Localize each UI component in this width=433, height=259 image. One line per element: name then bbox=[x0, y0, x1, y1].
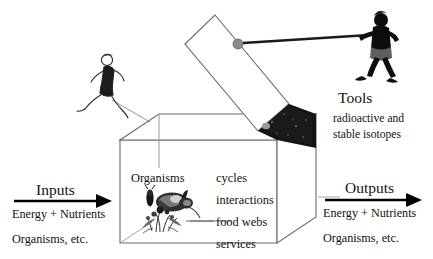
outputs-title: Outputs bbox=[345, 179, 394, 197]
lid-knob-icon bbox=[233, 39, 243, 49]
inputs-line-2: Organisms, etc. bbox=[12, 232, 88, 246]
rope-pulling-figure-icon bbox=[355, 11, 399, 83]
process-label-interactions: interactions bbox=[216, 193, 274, 207]
outputs-line-1: Energy + Nutrients bbox=[323, 206, 416, 220]
tools-line-1: radioactive and bbox=[333, 112, 404, 125]
rope-icon bbox=[243, 35, 369, 43]
inputs-title: Inputs bbox=[36, 181, 75, 199]
runner-leader-line bbox=[112, 100, 150, 122]
inputs-line-1: Energy + Nutrients bbox=[12, 207, 105, 221]
tools-title: Tools bbox=[338, 89, 372, 107]
ecosystem-black-box-figure: Inputs Energy + Nutrients Organisms, etc… bbox=[0, 0, 433, 259]
tools-line-2: stable isotopes bbox=[333, 128, 401, 141]
process-label-cycles: cycles bbox=[216, 171, 247, 185]
process-label-services: services bbox=[216, 237, 256, 251]
outputs-line-2: Organisms, etc. bbox=[323, 231, 399, 245]
panel-knob-icon bbox=[262, 123, 270, 129]
runner-figure-icon bbox=[77, 54, 128, 118]
process-label-food-webs: food webs bbox=[216, 215, 267, 229]
organisms-label: Organisms bbox=[131, 171, 184, 185]
